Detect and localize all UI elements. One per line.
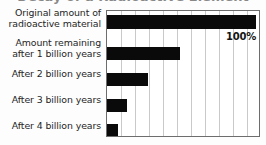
bar-after-3-billion-years	[107, 99, 127, 112]
chart-title-text: Decay of a Radioactive Element	[0, 0, 266, 4]
gridline	[149, 11, 150, 136]
gridline	[177, 11, 178, 136]
row-label: Amount remaining after 1 billion years	[0, 37, 101, 60]
chart-title-cropped: Decay of a Radioactive Element	[0, 0, 266, 5]
row-label-line: Original amount of	[0, 7, 101, 18]
bar-original-amount	[107, 15, 256, 29]
bar-after-4-billion-years	[107, 124, 118, 137]
gridline	[247, 11, 248, 136]
bar-after-2-billion-years	[107, 73, 148, 86]
bar-after-1-billion-years	[107, 47, 180, 60]
row-label: After 2 billion years	[0, 68, 101, 79]
row-label: Original amount of radioactive material	[0, 7, 101, 30]
row-label-line: radioactive material	[0, 18, 101, 29]
row-label-line: Amount remaining	[0, 37, 101, 48]
percent-annotation-label: 100%	[226, 31, 256, 42]
gridline	[219, 11, 220, 136]
row-label: After 4 billion years	[0, 120, 101, 131]
row-label-line: After 4 billion years	[0, 120, 101, 131]
row-label-line: After 3 billion years	[0, 94, 101, 105]
gridline	[205, 11, 206, 136]
plot-area: 100%	[106, 10, 260, 137]
row-label: After 3 billion years	[0, 94, 101, 105]
gridline	[163, 11, 164, 136]
gridline	[233, 11, 234, 136]
row-label-line: after 1 billion years	[0, 48, 101, 59]
row-label-line: After 2 billion years	[0, 68, 101, 79]
radioactive-decay-bar-chart: Decay of a Radioactive Element Original …	[0, 0, 266, 145]
gridline	[191, 11, 192, 136]
